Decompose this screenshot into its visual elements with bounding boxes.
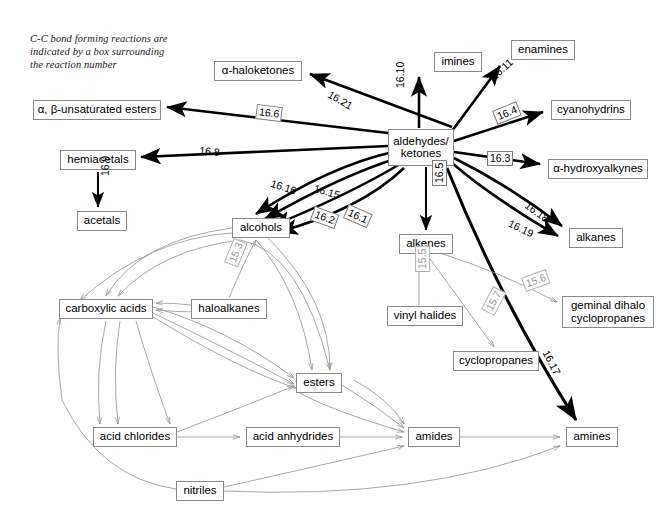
edge-label-16-3: 16.3 <box>487 151 513 166</box>
node-vinyl_halides: vinyl halides <box>387 306 463 326</box>
node-alpha_hydroxyalkynes: α-hydroxyalkynes <box>548 159 648 179</box>
node-acid_anhydrides: acid anhydrides <box>246 427 340 447</box>
edge-label-16-10: 16.10 <box>394 62 406 88</box>
node-alkanes: alkanes <box>569 228 623 248</box>
node-ab_unsaturated_esters: α, β-unsaturated esters <box>33 100 161 120</box>
node-cyclopropanes: cyclopropanes <box>453 351 539 371</box>
node-imines: imines <box>434 52 482 72</box>
edge-label-16-5: 16.5 <box>432 160 447 186</box>
node-amines: amines <box>566 427 618 447</box>
node-enamines: enamines <box>511 40 575 60</box>
node-carboxylic_acids: carboxylic acids <box>59 299 153 319</box>
edge-label-15-5: 15.5 <box>415 246 430 272</box>
edge-label-16-8: 16.8 <box>199 144 221 158</box>
node-haloalkanes: haloalkanes <box>191 299 267 319</box>
node-alcohols: alcohols <box>232 218 290 238</box>
node-acid_chlorides: acid chlorides <box>93 427 177 447</box>
node-cyanohydrins: cyanohydrins <box>551 100 631 120</box>
edge-label-16-6: 16.6 <box>255 104 283 122</box>
node-geminal_dihalo_cyclopropanes: geminal dihalocyclopropanes <box>562 296 654 328</box>
node-alpha_haloketones: α-haloketones <box>214 61 302 81</box>
legend-caption: C-C bond forming reactions are indicated… <box>30 32 168 71</box>
edge-label-16-9: 16.9 <box>99 156 111 176</box>
node-hemiacetals: hemiacetals <box>60 150 136 170</box>
reaction-map-canvas: C-C bond forming reactions are indicated… <box>0 0 666 522</box>
node-nitriles: nitriles <box>176 481 224 501</box>
node-acetals: acetals <box>77 211 127 231</box>
node-esters: esters <box>296 373 342 393</box>
node-amides: amides <box>408 427 460 447</box>
